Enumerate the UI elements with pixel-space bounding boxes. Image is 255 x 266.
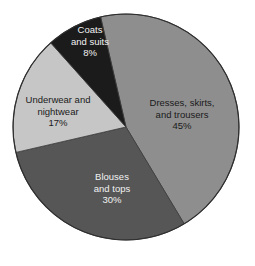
slice-label-line: and trousers — [156, 109, 209, 120]
slice-label-line: and tops — [94, 183, 131, 194]
slice-label-line: Coats — [78, 24, 103, 35]
slice-label-percent: 8% — [83, 47, 97, 58]
pie-slices — [13, 14, 239, 240]
slice-label-percent: 30% — [102, 194, 122, 205]
slice-label-line: Blouses — [95, 171, 129, 182]
slice-label-line: Underwear and — [26, 94, 91, 105]
slice-label-line: nightwear — [37, 106, 78, 117]
slice-label-percent: 17% — [48, 117, 68, 128]
slice-label-percent: 45% — [172, 120, 192, 131]
slice-label-line: Dresses, skirts, — [150, 97, 215, 108]
pie-chart: Dresses, skirts,and trousers45%Blousesan… — [0, 0, 255, 266]
slice-label-line: and suits — [71, 36, 109, 47]
